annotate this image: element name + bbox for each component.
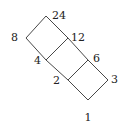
node-label-3: 3 [111,73,118,86]
node-label-24: 24 [52,9,66,22]
edge-3-1 [88,80,108,100]
node-labels: 2481246231 [11,9,118,124]
node-label-8: 8 [11,31,18,44]
edge-6-2 [68,60,88,80]
edge-2-1 [68,80,88,100]
node-label-12: 12 [71,31,85,44]
node-label-1: 1 [85,111,92,124]
edge-24-8 [26,16,46,38]
hasse-diagram: 2481246231 [0,0,124,128]
node-label-6: 6 [93,52,100,65]
node-label-2: 2 [53,74,60,87]
edge-12-4 [46,38,68,60]
node-label-4: 4 [34,54,41,67]
